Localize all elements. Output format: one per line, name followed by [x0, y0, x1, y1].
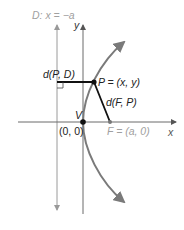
distance-F-P-label: d(F, P): [106, 96, 137, 108]
directrix-label: D: x = −a: [32, 9, 75, 21]
y-axis-label: y: [73, 19, 80, 31]
vertex-label: V: [75, 109, 83, 121]
parabola-diagram: D: x = −a y x d(P, D) P = (x, y) d(F, P)…: [0, 0, 184, 230]
focus-label: F = (a, 0): [107, 125, 150, 137]
point-F: [108, 120, 112, 124]
distance-P-D-label: d(P, D): [43, 68, 75, 80]
point-P: [91, 79, 96, 84]
x-axis-label: x: [167, 126, 174, 138]
point-P-label: P = (x, y): [98, 76, 140, 88]
origin-label: (0, 0): [59, 125, 84, 137]
